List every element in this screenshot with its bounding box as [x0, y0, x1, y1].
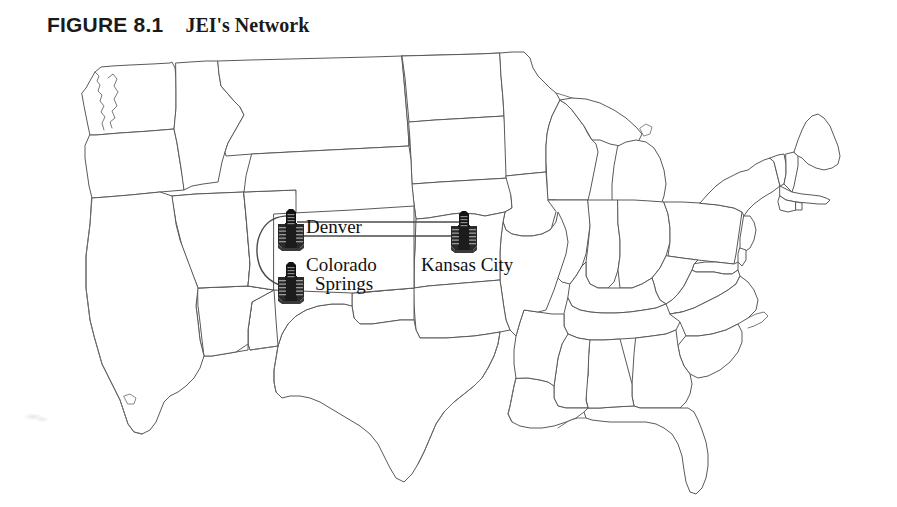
node-label-kansas-city: Kansas City: [421, 255, 513, 274]
node-label-denver: Denver: [306, 217, 362, 236]
node-label-colorado-springs: Colorado Springs: [306, 255, 377, 294]
node-label-kansas-city-line-1: Kansas City: [421, 255, 513, 274]
node-label-colorado-springs-line-1: Colorado: [306, 255, 377, 274]
node-label-denver-line-1: Denver: [306, 217, 362, 236]
node-label-colorado-springs-line-2: Springs: [306, 274, 377, 293]
figure-container: FIGURE 8.1JEI's Network: [0, 0, 897, 507]
